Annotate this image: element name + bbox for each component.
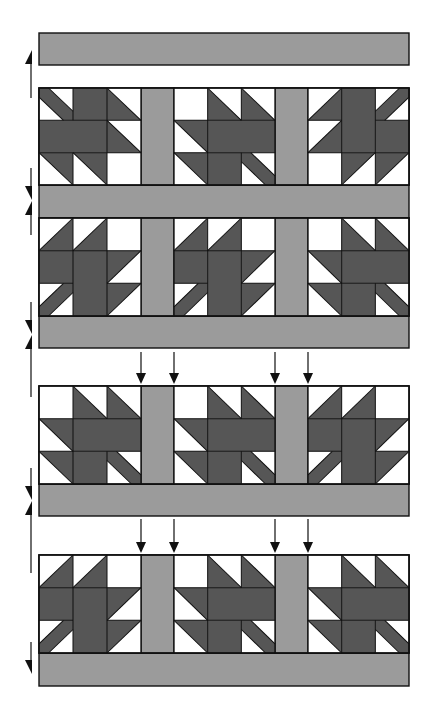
placement-arrow-down-icon: [136, 352, 146, 384]
side-arrow-up-icon: [25, 501, 32, 573]
horizontal-sashing-strip-1: [39, 33, 409, 65]
quilt-assembly-diagram: .bg { fill: #ffffff; } .lf { fill: #5656…: [0, 0, 430, 710]
placement-arrow-down-icon: [303, 519, 313, 553]
horizontal-sashing-strip-4: [39, 484, 409, 516]
vertical-sashing-strip: [141, 218, 174, 316]
block-row-2: [39, 218, 409, 316]
maple-leaf-block: [39, 88, 141, 185]
vertical-sashing-strip: [141, 386, 174, 484]
block-row-4: [39, 555, 409, 653]
placement-arrow-down-icon: [303, 352, 313, 384]
maple-leaf-block: [308, 386, 409, 484]
side-arrow-up-icon: [25, 50, 32, 98]
side-arrow-up-icon: [25, 335, 32, 397]
block-rows-layer: [39, 88, 409, 653]
vertical-sashing-strip: [275, 386, 308, 484]
vertical-sashing-strip: [275, 555, 308, 653]
maple-leaf-block: [39, 555, 141, 653]
maple-leaf-block: [174, 386, 275, 484]
side-arrow-down-icon: [25, 302, 32, 334]
side-arrow-down-icon: [25, 468, 32, 500]
side-arrow-down-icon: [25, 642, 32, 674]
maple-leaf-block: [39, 218, 141, 316]
placement-arrow-down-icon: [169, 352, 179, 384]
block-row-1: [39, 88, 409, 185]
horizontal-sashing-strip-2: [39, 185, 409, 218]
side-arrow-up-icon: [25, 201, 32, 235]
placement-arrow-down-icon: [270, 352, 280, 384]
maple-leaf-block: [174, 555, 275, 653]
vertical-sashing-strip: [275, 88, 308, 185]
maple-leaf-block: [39, 386, 141, 484]
maple-leaf-block: [308, 218, 409, 316]
maple-leaf-block: [174, 88, 275, 185]
vertical-sashing-strip: [141, 88, 174, 185]
horizontal-sashing-strip-5: [39, 653, 409, 686]
side-arrow-down-icon: [25, 168, 32, 200]
maple-leaf-block: [174, 218, 275, 316]
maple-leaf-block: [308, 88, 409, 185]
vertical-sashing-strip: [141, 555, 174, 653]
placement-arrow-down-icon: [270, 519, 280, 553]
placement-arrow-down-icon: [169, 519, 179, 553]
horizontal-sashing-strip-3: [39, 316, 409, 348]
block-row-3: [39, 386, 409, 484]
vertical-sashing-strip: [275, 218, 308, 316]
placement-arrow-down-icon: [136, 519, 146, 553]
maple-leaf-block: [308, 555, 409, 653]
